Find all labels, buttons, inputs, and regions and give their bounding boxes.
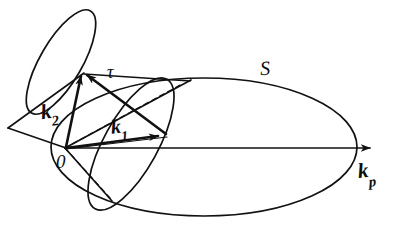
ellipse-S: [51, 78, 357, 216]
label-origin: 0: [56, 152, 66, 171]
figure-canvas: k2 k1 kp τ S 0: [0, 0, 399, 231]
label-tau: τ: [107, 63, 113, 81]
vector-k2[interactable]: [66, 76, 81, 147]
label-k2: k2: [39, 100, 60, 127]
label-kp: kp: [357, 159, 377, 186]
upper-cone-line-left: [8, 128, 66, 148]
label-surface-S: S: [259, 58, 270, 79]
diagram-svg: [0, 0, 399, 231]
ellipse-cone-base-upper: [13, 0, 108, 123]
chord-k2tip-to-rim: [84, 74, 190, 81]
label-k1: k1: [110, 115, 129, 141]
